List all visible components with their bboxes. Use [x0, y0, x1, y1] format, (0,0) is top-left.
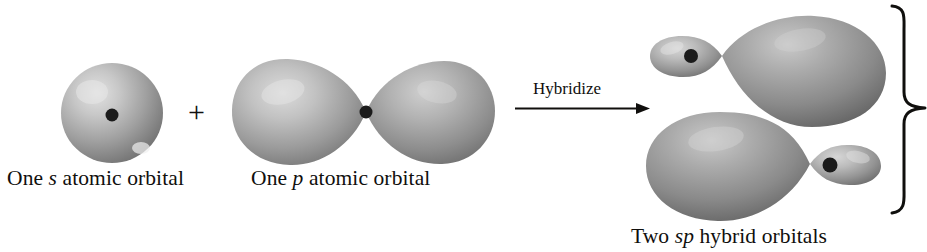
sp-hybrid-orbital-top-shape: [650, 16, 886, 127]
grouping-brace: [892, 6, 925, 213]
p-orbital-nucleus-dot: [360, 106, 373, 119]
hybridize-arrow: [515, 103, 650, 114]
s-orbital-nucleus-dot: [106, 109, 119, 122]
orbital-hybridization-figure: + Hybridize One s atomic orbital One p a…: [0, 0, 927, 252]
sp-hybrid-orbital-bottom-shape: [646, 112, 881, 221]
caption-s-prefix: One: [7, 166, 49, 190]
caption-p-suffix: atomic orbital: [303, 166, 430, 190]
sp-hybrid-bottom-nucleus-dot: [823, 158, 838, 173]
caption-s-suffix: atomic orbital: [57, 166, 184, 190]
hybridize-arrow-label: Hybridize: [533, 79, 601, 99]
caption-p-prefix: One: [251, 166, 293, 190]
s-atomic-orbital-caption: One s atomic orbital: [7, 166, 184, 190]
s-atomic-orbital-shape: [61, 63, 163, 163]
p-atomic-orbital-caption: One p atomic orbital: [251, 166, 430, 190]
sp-hybrid-orbitals-caption: Two sp hybrid orbitals: [631, 224, 827, 248]
plus-sign: +: [188, 96, 205, 128]
caption-sp-symbol: sp: [675, 224, 694, 248]
caption-s-symbol: s: [49, 166, 57, 190]
orbital-diagram-svg: [0, 0, 927, 252]
sp-hybrid-top-nucleus-dot: [684, 49, 698, 63]
caption-p-symbol: p: [293, 166, 304, 190]
p-atomic-orbital-shape: [232, 59, 495, 165]
caption-sp-prefix: Two: [631, 224, 675, 248]
caption-sp-suffix: hybrid orbitals: [694, 224, 827, 248]
